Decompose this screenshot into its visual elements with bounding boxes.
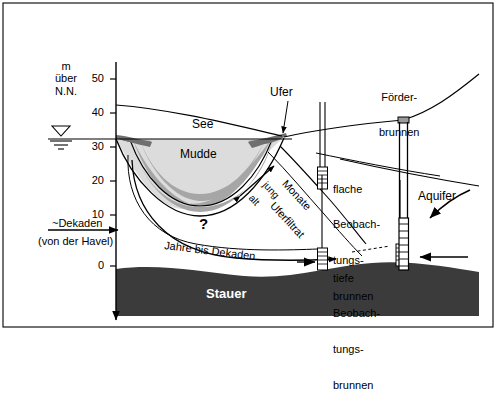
label-shallow-line1: flache: [333, 184, 380, 196]
water-table-symbol: [50, 126, 72, 149]
y-tick-label-0: 0: [80, 259, 104, 271]
label-unknown-marker: ?: [199, 216, 208, 232]
label-see: See: [192, 118, 213, 131]
y-tick-label-30: 30: [80, 140, 104, 152]
y-tick-label-20: 20: [80, 174, 104, 186]
label-aquifer: Aquifer: [418, 190, 456, 203]
label-well-production-line1: Förder-: [379, 92, 419, 104]
label-deep-line1: tiefe: [333, 273, 380, 285]
label-decades-source: (von der Havel): [38, 236, 113, 248]
y-tick-label-40: 40: [80, 106, 104, 118]
y-tick-label-50: 50: [80, 72, 104, 84]
stauer-layer: [116, 262, 479, 316]
label-well-production-line2: brunnen: [379, 127, 419, 139]
label-well-deep-observation: tiefe Beobach- tungs- brunnen: [333, 249, 380, 393]
label-deep-line4: brunnen: [333, 380, 380, 392]
label-well-production: Förder- brunnen: [379, 68, 419, 163]
pointer-ufer: [283, 101, 288, 133]
label-stauer: Stauer: [206, 287, 246, 301]
label-mudde: Mudde: [180, 148, 217, 161]
label-deep-line2: Beobach-: [333, 308, 380, 320]
label-deep-line3: tungs-: [333, 344, 380, 356]
label-decades: ~Dekaden: [52, 218, 102, 230]
label-ufer: Ufer: [270, 86, 293, 99]
label-shallow-line2: Beobach-: [333, 219, 380, 231]
